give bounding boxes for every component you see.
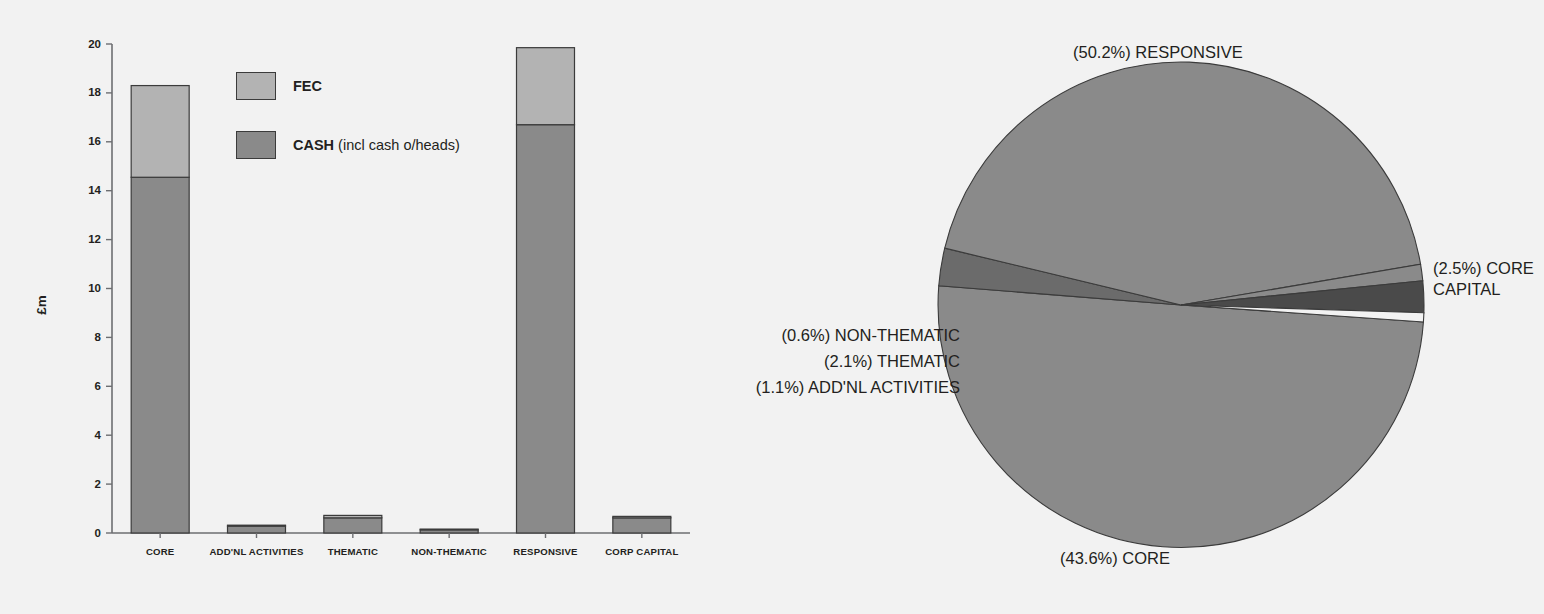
y-tick-label: 0	[95, 527, 101, 539]
legend-key-fec: FEC	[293, 78, 322, 94]
y-tick-label: 8	[95, 331, 102, 343]
y-tick-label: 20	[88, 38, 101, 50]
x-tick-label: CORP CAPITAL	[605, 546, 678, 557]
legend-swatch-cash	[236, 131, 276, 159]
y-tick-label: 4	[95, 429, 102, 441]
bar-segment-fec	[324, 515, 382, 517]
legend-key-cash: CASH	[293, 137, 334, 153]
pie-label-core-capital-line2: CAPITAL	[1433, 279, 1544, 300]
x-tick-label: RESPONSIVE	[513, 546, 578, 557]
y-tick-label: 18	[88, 86, 101, 98]
pie-chart-panel: (50.2%) RESPONSIVE (2.5%) CORE CAPITAL (…	[760, 0, 1544, 614]
bar-segment-fec	[131, 86, 189, 178]
x-tick-label: ADD'NL ACTIVITIES	[209, 546, 303, 557]
y-tick-label: 2	[95, 478, 101, 490]
legend-item-fec: FEC	[236, 72, 566, 100]
pie-label-core: (43.6%) CORE	[1060, 548, 1170, 569]
pie-label-responsive: (50.2%) RESPONSIVE	[1073, 42, 1243, 63]
y-axis-ticks: 02468101214161820	[88, 38, 112, 539]
chart-page: 02468101214161820 COREADD'NL ACTIVITIEST…	[0, 0, 1544, 614]
bar-segment-cash	[613, 518, 671, 533]
y-tick-label: 6	[95, 380, 101, 392]
y-tick-label: 12	[88, 233, 101, 245]
bar-segment-fec	[420, 529, 478, 530]
y-tick-label: 14	[88, 184, 101, 196]
bar-chart-panel: 02468101214161820 COREADD'NL ACTIVITIEST…	[0, 0, 760, 614]
x-tick-label: CORE	[146, 546, 175, 557]
bar-segment-cash	[324, 518, 382, 533]
legend-label-cash: CASH (incl cash o/heads)	[293, 137, 460, 153]
bar-chart-legend: FEC CASH (incl cash o/heads)	[236, 72, 566, 190]
pie-label-addnl-activities: (1.1%) ADD'NL ACTIVITIES	[755, 377, 960, 398]
y-tick-label: 16	[88, 135, 101, 147]
legend-item-cash: CASH (incl cash o/heads)	[236, 131, 566, 159]
legend-swatch-fec	[236, 72, 276, 100]
pie-left-label-stack: (0.6%) NON-THEMATIC (2.1%) THEMATIC (1.1…	[755, 325, 960, 403]
y-axis-title: £m	[34, 295, 49, 315]
pie-label-core-capital: (2.5%) CORE CAPITAL	[1433, 258, 1544, 300]
pie-label-core-capital-line1: (2.5%) CORE	[1433, 258, 1544, 279]
pie-label-thematic: (2.1%) THEMATIC	[755, 351, 960, 372]
bar-segment-fec	[228, 525, 286, 526]
bar-segment-cash	[228, 526, 286, 533]
pie-chart-svg	[760, 0, 1544, 614]
legend-label-fec: FEC	[293, 78, 322, 94]
x-tick-label: THEMATIC	[328, 546, 378, 557]
pie-slice	[938, 286, 1423, 548]
x-axis-ticks: COREADD'NL ACTIVITIESTHEMATICNON-THEMATI…	[146, 533, 679, 557]
x-tick-label: NON-THEMATIC	[411, 546, 487, 557]
legend-note-cash: (incl cash o/heads)	[334, 137, 460, 153]
pie-slice-group	[938, 62, 1424, 547]
y-tick-label: 10	[88, 282, 101, 294]
pie-label-non-thematic: (0.6%) NON-THEMATIC	[755, 325, 960, 346]
bar-segment-cash	[131, 177, 189, 533]
bar-segment-fec	[613, 516, 671, 517]
